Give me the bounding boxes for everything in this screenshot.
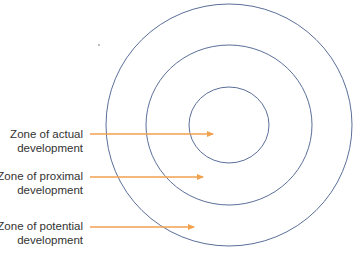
label-line2: development [0,234,83,248]
label-zone-actual: Zone of actual development [0,128,83,155]
middle-circle-proximal [146,45,312,205]
label-line1: Zone of actual [0,128,83,142]
outer-circle-potential [106,4,352,246]
label-zone-proximal: Zone of proximal development [0,170,83,197]
stray-dot [98,44,100,46]
label-line2: development [0,142,83,156]
label-zone-potential: Zone of potential development [0,220,83,247]
label-line2: development [0,184,83,198]
label-line1: Zone of potential [0,220,83,234]
inner-circle-actual [189,87,269,163]
label-line1: Zone of proximal [0,170,83,184]
